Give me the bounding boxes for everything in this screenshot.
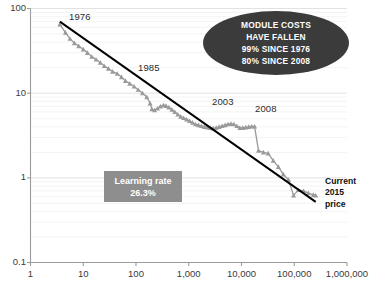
x-axis-tick-label: 100,000 (264, 268, 324, 279)
annotation-year-2003: 2003 (212, 96, 234, 107)
x-axis-tick-label: 100 (106, 268, 166, 279)
x-axis-tick-label: 1 (1, 268, 61, 279)
x-axis-tick-label: 10 (53, 268, 113, 279)
current-price-line-2: 2015 (325, 187, 356, 198)
current-price-line-3: price (325, 199, 356, 210)
y-axis-tick-label: 1 (0, 171, 26, 182)
current-price-label: Current 2015 price (325, 176, 356, 210)
callout-ellipse (203, 11, 349, 75)
annotation-year-1985: 1985 (138, 62, 160, 73)
x-axis-tick-label: 10,000 (212, 268, 272, 279)
annotation-year-2008: 2008 (255, 103, 277, 114)
learning-rate-value: 26.3% (130, 187, 156, 199)
y-axis-tick-label: 100 (0, 2, 26, 13)
learning-rate-box: Learning rate 26.3% (104, 171, 182, 202)
learning-rate-title: Learning rate (114, 175, 171, 187)
current-price-line-1: Current (325, 176, 356, 187)
chart-container: 100 10 1 0.1 1 10 100 1,000 10,000 100,0… (0, 0, 370, 286)
x-axis-tick-label: 1,000,000 (317, 268, 370, 279)
chart-plot-area (0, 0, 370, 286)
annotation-year-1976: 1976 (69, 11, 91, 22)
x-axis-tick-label: 1,000 (159, 268, 219, 279)
y-axis-tick-label: 10 (0, 87, 26, 98)
y-axis-tick-label: 0.1 (0, 256, 26, 267)
